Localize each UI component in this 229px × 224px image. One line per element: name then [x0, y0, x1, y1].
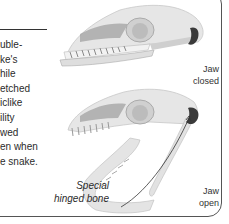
callout-line: Special	[54, 179, 109, 192]
jaw-closed-label: Jaw closed	[193, 63, 219, 87]
jaw-open-label-line: Jaw	[199, 185, 219, 197]
hinged-bone-callout: Special hinged bone	[54, 179, 109, 205]
callout-leader-line	[121, 118, 189, 207]
skull-illustration	[0, 0, 229, 224]
callout-line: hinged bone	[54, 192, 109, 205]
skull-closed-illustration	[60, 5, 203, 66]
jaw-closed-label-line: closed	[193, 75, 219, 87]
jaw-open-label: Jaw open	[199, 185, 219, 209]
jaw-open-label-line: open	[199, 197, 219, 209]
jaw-closed-label-line: Jaw	[193, 63, 219, 75]
